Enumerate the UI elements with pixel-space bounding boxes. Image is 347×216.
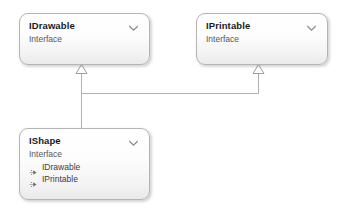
member-label: IPrintable <box>42 174 78 185</box>
class-stereotype: Interface <box>29 148 62 160</box>
class-stereotype: Interface <box>29 33 75 45</box>
class-title: IPrintable <box>206 20 250 32</box>
implements-interface-icon <box>29 175 38 184</box>
class-header-text: IPrintable Interface <box>206 20 250 45</box>
double-chevron-down-icon[interactable] <box>128 135 139 146</box>
realization-ishape-iprintable <box>82 65 265 94</box>
member-row[interactable]: IDrawable <box>29 162 140 173</box>
uml-class-box-iprintable[interactable]: IPrintable Interface <box>196 13 328 65</box>
implements-interface-icon <box>29 163 38 172</box>
double-chevron-down-icon[interactable] <box>306 20 317 31</box>
uml-diagram-canvas: IDrawable Interface IPrintable Interface <box>0 0 347 216</box>
class-header: IShape Interface <box>29 135 140 160</box>
class-title: IDrawable <box>29 20 75 32</box>
class-header-text: IDrawable Interface <box>29 20 75 45</box>
member-label: IDrawable <box>42 162 80 173</box>
uml-class-box-ishape[interactable]: IShape Interface IDrawable <box>19 128 150 200</box>
realization-line-right <box>82 73 259 94</box>
hollow-triangle-arrowhead-idrawable <box>76 65 87 74</box>
class-header: IPrintable Interface <box>206 20 318 45</box>
class-header-text: IShape Interface <box>29 135 62 160</box>
hollow-triangle-arrowhead-iprintable <box>253 65 264 74</box>
double-chevron-down-icon[interactable] <box>128 20 139 31</box>
member-list: IDrawable IPrintable <box>29 162 140 185</box>
member-row[interactable]: IPrintable <box>29 174 140 185</box>
uml-class-box-idrawable[interactable]: IDrawable Interface <box>19 13 150 65</box>
class-title: IShape <box>29 135 62 147</box>
realization-ishape-idrawable <box>76 65 87 129</box>
class-header: IDrawable Interface <box>29 20 140 45</box>
class-stereotype: Interface <box>206 33 250 45</box>
